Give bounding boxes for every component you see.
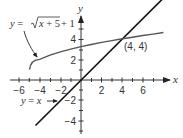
y-tick-label: 4: [70, 34, 76, 45]
intersection-label: (4, 4): [124, 41, 147, 52]
line-equation-label: y = x: [20, 95, 42, 106]
svg-text:+ 1: + 1: [61, 18, 75, 29]
svg-text:y =: y =: [9, 18, 23, 29]
x-axis: −6 −4 −2 2 4 6 x: [10, 73, 178, 96]
sqrt-equation-arrow: [24, 31, 37, 57]
y-tick-label: −4: [65, 116, 77, 127]
x-axis-label: x: [172, 73, 178, 85]
x-tick-label: 4: [119, 85, 125, 96]
y-tick-label: −2: [65, 95, 77, 106]
svg-text:x + 5: x + 5: [38, 18, 60, 29]
y-axis-label: y: [77, 2, 83, 14]
function-graph: −6 −4 −2 2 4 6 x 4 2 −2 −4 y (4, 4): [0, 0, 183, 138]
x-tick-label: 6: [140, 85, 146, 96]
y-tick-label: 2: [70, 55, 76, 66]
x-tick-label: 2: [99, 85, 105, 96]
sqrt-equation-label: y = x + 5 + 1: [9, 17, 75, 29]
